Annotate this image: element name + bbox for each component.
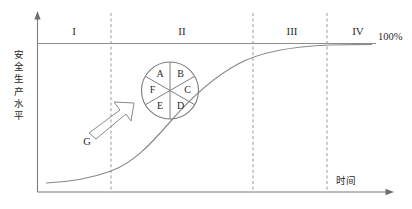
x-axis [38, 189, 395, 195]
diagram-canvas: I II III IV 100% 时间 A B C D E F G [0, 0, 412, 209]
safety-production-level-figure: 安 全 生 产 水 平 I II III IV 100% [0, 0, 412, 209]
y-axis-arrowhead [34, 11, 40, 20]
region-label-4: IV [352, 25, 364, 37]
pie-sector-label-f: F [150, 84, 156, 95]
y-axis [34, 11, 40, 192]
region-label-3: III [287, 25, 298, 37]
pie-sector-label-b: B [177, 68, 184, 79]
pie-sector-label-d: D [177, 100, 184, 111]
pie-sector-label-a: A [156, 68, 164, 79]
y-axis-label: 安 全 生 产 水 平 [11, 49, 27, 122]
y-axis-label-char-3: 生 [14, 73, 24, 85]
y-axis-label-char-4: 产 [14, 86, 24, 98]
y-axis-label-char-6: 平 [14, 110, 24, 122]
ceiling-percent-label: 100% [378, 31, 403, 42]
s-curve-safety-level [46, 44, 372, 183]
x-axis-label: 时间 [336, 175, 356, 186]
y-axis-label-char-1: 安 [14, 49, 24, 61]
pie-sector-label-c: C [184, 84, 191, 95]
pie-sector-label-e: E [157, 100, 163, 111]
region-label-2: II [178, 25, 186, 37]
y-axis-label-char-5: 水 [14, 98, 24, 110]
y-axis-label-char-2: 全 [14, 61, 24, 73]
x-axis-arrowhead [386, 189, 395, 195]
region-label-1: I [72, 25, 76, 37]
callout-label-g: G [83, 136, 91, 147]
six-sector-pie-diagram: A B C D E F [142, 62, 199, 119]
